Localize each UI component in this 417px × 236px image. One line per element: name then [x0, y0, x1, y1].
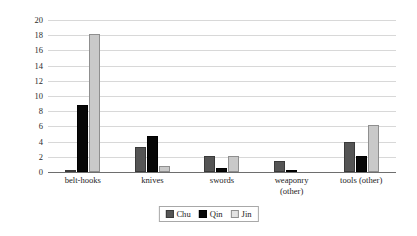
x-axis-tick-label: knives: [118, 175, 188, 196]
y-axis-tick-label: 16: [35, 46, 44, 55]
bar-chu: [65, 170, 76, 172]
bar-qin: [356, 156, 367, 172]
y-axis-tick-label: 10: [35, 92, 44, 101]
legend-label: Chu: [176, 209, 190, 219]
bar-group: [326, 20, 396, 172]
bar-group: [48, 20, 118, 172]
legend-swatch-icon: [199, 210, 207, 218]
legend-item-jin[interactable]: Jin: [231, 209, 252, 219]
y-axis-tick-label: 20: [35, 16, 44, 25]
x-axis-tick-label: swords: [187, 175, 257, 196]
y-axis-tick-label: 18: [35, 31, 44, 40]
legend-item-qin[interactable]: Qin: [199, 209, 223, 219]
bar-qin: [77, 105, 88, 172]
bar-group: [187, 20, 257, 172]
bar-qin: [216, 168, 227, 172]
legend-label: Jin: [242, 209, 252, 219]
x-axis-tick-label: belt-hooks: [48, 175, 118, 196]
legend-item-chu[interactable]: Chu: [165, 209, 190, 219]
y-axis-tick-label: 12: [35, 77, 44, 86]
bar-chu: [344, 142, 355, 172]
bar-chart: Percentage 20181614121086420 belt-hooksk…: [0, 0, 417, 236]
bar-jin: [228, 156, 239, 172]
x-axis-category-labels: belt-hooksknivesswordsweaponry(other)too…: [48, 175, 396, 196]
bar-group: [257, 20, 327, 172]
bar-groups: [48, 20, 396, 172]
y-axis-tick-label: 0: [39, 168, 43, 177]
bar-qin: [286, 170, 297, 172]
bar-jin: [159, 166, 170, 172]
bar-qin: [147, 136, 158, 172]
x-axis-tick-label: tools (other): [326, 175, 396, 196]
bar-jin: [368, 125, 379, 172]
bar-chu: [204, 156, 215, 172]
y-axis-tick-label: 14: [35, 61, 44, 70]
bar-chu: [135, 147, 146, 172]
x-axis-tick-label: weaponry(other): [257, 175, 327, 196]
y-axis-tick-label: 6: [39, 122, 43, 131]
bar-group: [118, 20, 188, 172]
chart-legend: ChuQinJin: [158, 206, 258, 222]
bar-chu: [274, 161, 285, 172]
y-axis-tick-label: 8: [39, 107, 43, 116]
x-axis-line: 0: [48, 172, 396, 173]
plot-area: 20181614121086420: [48, 20, 396, 172]
y-axis-tick-label: 4: [39, 137, 43, 146]
legend-swatch-icon: [231, 210, 239, 218]
bar-jin: [89, 34, 100, 172]
y-axis-tick-label: 2: [39, 153, 43, 162]
legend-swatch-icon: [165, 210, 173, 218]
legend-label: Qin: [210, 209, 223, 219]
